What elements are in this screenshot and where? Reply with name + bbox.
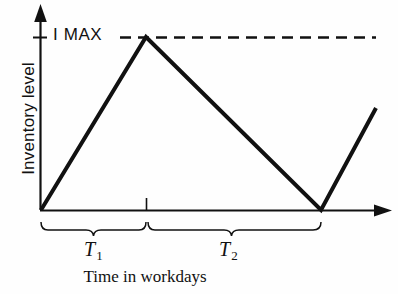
t2-symbol: T (219, 238, 230, 260)
t1-symbol: T (84, 238, 95, 260)
t1-subscript: 1 (95, 248, 103, 263)
imax-level-label: I MAX (53, 26, 102, 43)
t1-brace (41, 222, 146, 236)
t2-subscript: 2 (230, 248, 238, 263)
t1-period-label: T1 (84, 239, 103, 262)
x-axis (40, 205, 392, 217)
x-axis-label: Time in workdays (0, 268, 290, 285)
inventory-level-chart: Inventory level I MAX T1 T2 Time in work… (0, 0, 398, 294)
t2-brace (148, 222, 321, 236)
t2-period-label: T2 (219, 239, 238, 262)
chart-canvas (0, 0, 398, 294)
inventory-sawtooth-line (41, 37, 376, 210)
y-axis-label: Inventory level (20, 39, 37, 199)
